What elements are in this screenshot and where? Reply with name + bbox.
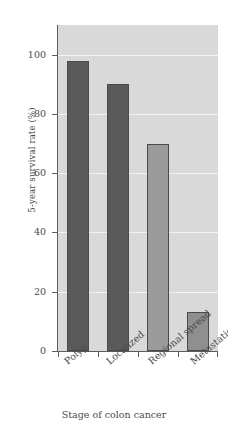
y-axis-tick xyxy=(52,232,58,233)
x-axis-title: Stage of colon cancer xyxy=(0,409,228,420)
y-axis-tick-label: 20 xyxy=(6,287,46,297)
bar xyxy=(67,61,89,351)
y-axis-title: 5-year survival rate (%) xyxy=(27,80,37,240)
y-axis-tick-label: 100 xyxy=(6,50,46,60)
x-axis-tick-labels: PolypLocalizedRegional spreadMetastatic xyxy=(0,351,228,406)
y-axis-tick xyxy=(52,55,58,56)
bar xyxy=(107,84,129,351)
y-axis-tick xyxy=(52,114,58,115)
y-axis-tick-label: 80 xyxy=(6,109,46,119)
y-axis-tick-label: 40 xyxy=(6,227,46,237)
y-axis-tick xyxy=(52,173,58,174)
plot-area xyxy=(58,25,218,351)
bar-chart-figure: 5-year survival rate (%) 020406080100 Po… xyxy=(0,0,228,428)
y-axis-line xyxy=(57,25,58,352)
y-axis-tick-label: 60 xyxy=(6,168,46,178)
y-axis-tick xyxy=(52,292,58,293)
bars-group xyxy=(58,25,218,351)
bar xyxy=(147,144,169,351)
